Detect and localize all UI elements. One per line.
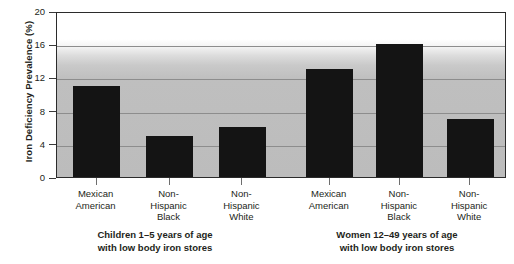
bar bbox=[376, 44, 423, 177]
y-tick-mark bbox=[49, 12, 56, 13]
group-caption-line2: with low body iron stores bbox=[30, 242, 280, 255]
x-axis-label: Non-HispanicWhite bbox=[198, 188, 284, 223]
bar bbox=[306, 69, 353, 177]
x-axis-label-line: Non- bbox=[198, 188, 284, 200]
y-tick-4: 4 bbox=[0, 139, 56, 151]
x-tick-mark bbox=[169, 178, 170, 185]
x-tick-mark bbox=[399, 178, 400, 185]
iron-deficiency-bar-chart: Iron Deficiency Prevalence (%) 048121620… bbox=[0, 0, 514, 264]
bar bbox=[73, 86, 120, 177]
y-tick-mark bbox=[49, 111, 56, 112]
group-caption-line1: Women 12–49 years of age bbox=[272, 229, 514, 242]
gridline-4 bbox=[57, 146, 505, 147]
y-tick-0: 0 bbox=[0, 172, 56, 184]
x-axis-label-line: White bbox=[198, 211, 284, 223]
x-tick-mark bbox=[241, 178, 242, 185]
y-tick-mark bbox=[49, 78, 56, 79]
gridline-12 bbox=[57, 79, 505, 80]
x-axis-label-line: Non- bbox=[426, 188, 512, 200]
x-tick-mark bbox=[329, 178, 330, 185]
x-axis-label-line: Hispanic bbox=[426, 200, 512, 212]
gridline-8 bbox=[57, 113, 505, 114]
gridline-16 bbox=[57, 46, 505, 47]
y-axis-title: Iron Deficiency Prevalence (%) bbox=[23, 2, 34, 182]
y-tick-label: 16 bbox=[15, 39, 45, 51]
bar bbox=[447, 119, 494, 177]
x-axis-label: Non-HispanicWhite bbox=[426, 188, 512, 223]
y-tick-mark bbox=[49, 178, 56, 179]
bar bbox=[219, 127, 266, 177]
x-tick-mark bbox=[96, 178, 97, 185]
y-tick-mark bbox=[49, 45, 56, 46]
y-tick-16: 16 bbox=[0, 39, 56, 51]
x-tick-mark bbox=[469, 178, 470, 185]
y-tick-8: 8 bbox=[0, 106, 56, 118]
y-tick-12: 12 bbox=[0, 72, 56, 84]
y-tick-label: 20 bbox=[15, 6, 45, 18]
group-caption-line1: Children 1–5 years of age bbox=[30, 229, 280, 242]
plot-area bbox=[56, 12, 506, 178]
y-tick-label: 8 bbox=[15, 106, 45, 118]
y-tick-mark bbox=[49, 144, 56, 145]
group-caption-women: Women 12–49 years of age with low body i… bbox=[272, 229, 514, 254]
group-caption-children: Children 1–5 years of age with low body … bbox=[30, 229, 280, 254]
x-axis-label-line: Hispanic bbox=[198, 200, 284, 212]
y-tick-label: 0 bbox=[15, 172, 45, 184]
y-tick-label: 12 bbox=[15, 72, 45, 84]
y-tick-label: 4 bbox=[15, 139, 45, 151]
x-axis-label-line: White bbox=[426, 211, 512, 223]
y-tick-20: 20 bbox=[0, 6, 56, 18]
bar bbox=[146, 136, 193, 178]
group-caption-line2: with low body iron stores bbox=[272, 242, 514, 255]
